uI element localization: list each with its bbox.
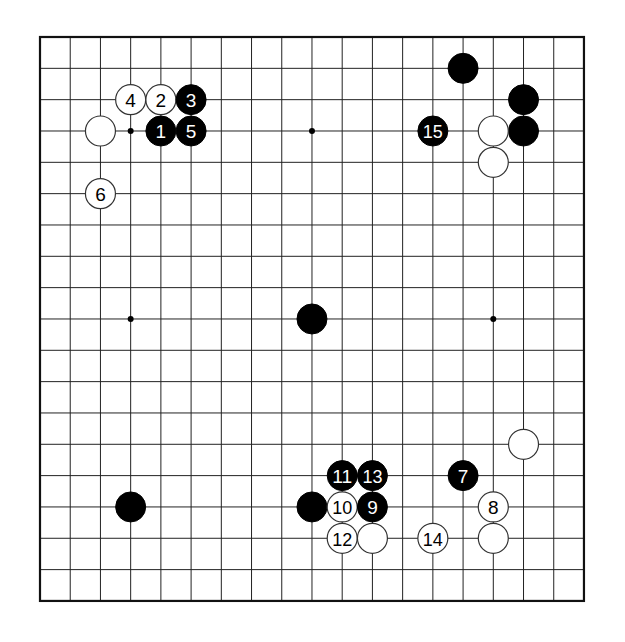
white-stone-circle (478, 147, 508, 177)
black-stone-circle (448, 53, 478, 83)
black-stone-circle (509, 116, 539, 146)
black-stone-circle (297, 492, 327, 522)
black-stone: 13 (357, 461, 387, 491)
move-number-label: 7 (458, 466, 469, 487)
star-point (128, 128, 134, 134)
move-number-label: 8 (488, 497, 499, 518)
black-stone-circle (116, 492, 146, 522)
white-stone-circle (85, 116, 115, 146)
star-point (128, 316, 134, 322)
move-number-label: 14 (423, 529, 443, 550)
white-stone-circle (478, 116, 508, 146)
white-stone (85, 116, 115, 146)
move-number-label: 11 (332, 466, 352, 487)
white-stone: 12 (327, 523, 357, 553)
go-board-diagram: 423156157814111310912 (0, 0, 625, 642)
move-number-label: 5 (186, 121, 197, 142)
black-stone (297, 492, 327, 522)
move-number-label: 9 (367, 497, 378, 518)
black-stone: 5 (176, 116, 206, 146)
black-stone-circle (297, 304, 327, 334)
move-number-label: 1 (156, 121, 167, 142)
white-stone (478, 116, 508, 146)
black-stone: 1 (146, 116, 176, 146)
black-stone: 15 (418, 116, 448, 146)
move-number-label: 10 (332, 497, 352, 518)
white-stone: 14 (418, 523, 448, 553)
white-stone (357, 523, 387, 553)
move-number-label: 2 (156, 90, 167, 111)
white-stone: 2 (146, 85, 176, 115)
black-stone: 11 (327, 461, 357, 491)
black-stone (448, 53, 478, 83)
black-stone-circle (509, 85, 539, 115)
black-stone (116, 492, 146, 522)
black-stone: 7 (448, 461, 478, 491)
white-stone-circle (509, 429, 539, 459)
go-board: 423156157814111310912 (0, 0, 625, 642)
white-stone (478, 147, 508, 177)
star-point (309, 128, 315, 134)
white-stone-circle (478, 523, 508, 553)
star-point (490, 316, 496, 322)
black-stone: 3 (176, 85, 206, 115)
white-stone: 10 (327, 492, 357, 522)
white-stone: 8 (478, 492, 508, 522)
black-stone (297, 304, 327, 334)
black-stone (509, 116, 539, 146)
move-number-label: 6 (95, 184, 106, 205)
white-stone (509, 429, 539, 459)
white-stone (478, 523, 508, 553)
black-stone: 9 (357, 492, 387, 522)
move-number-label: 3 (186, 90, 197, 111)
white-stone: 6 (85, 179, 115, 209)
white-stone: 4 (116, 85, 146, 115)
move-number-label: 12 (332, 529, 352, 550)
move-number-label: 13 (362, 466, 382, 487)
move-number-label: 4 (125, 90, 136, 111)
move-number-label: 15 (423, 121, 443, 142)
black-stone (509, 85, 539, 115)
white-stone-circle (357, 523, 387, 553)
